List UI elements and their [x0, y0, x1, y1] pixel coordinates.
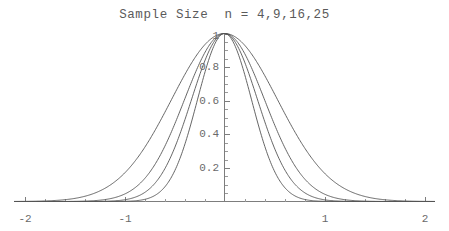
plot-area: -2 -1 1 2 0.2 0.4 0.6 0.8 1 [0, 0, 449, 231]
x-tick-label-pos1: 1 [322, 213, 329, 225]
y-tick-label-04: 0.4 [199, 128, 219, 140]
y-tick-label-06: 0.6 [199, 95, 219, 107]
y-major-ticks [225, 35, 230, 169]
chart-figure: Sample Size n = 4,9,16,25 -2 -1 1 2 0.2 … [0, 0, 449, 231]
y-tick-label-08: 0.8 [199, 61, 219, 73]
y-tick-label-02: 0.2 [199, 162, 219, 174]
y-tick-label-1: 1 [212, 30, 219, 42]
x-tick-label-pos2: 2 [422, 213, 429, 225]
x-tick-label-neg2: -2 [18, 213, 31, 225]
x-tick-label-neg1: -1 [118, 213, 132, 225]
y-minor-ticks [225, 43, 228, 194]
y-tick-labels: 0.2 0.4 0.6 0.8 1 [199, 30, 219, 174]
x-tick-labels: -2 -1 1 2 [18, 213, 428, 225]
